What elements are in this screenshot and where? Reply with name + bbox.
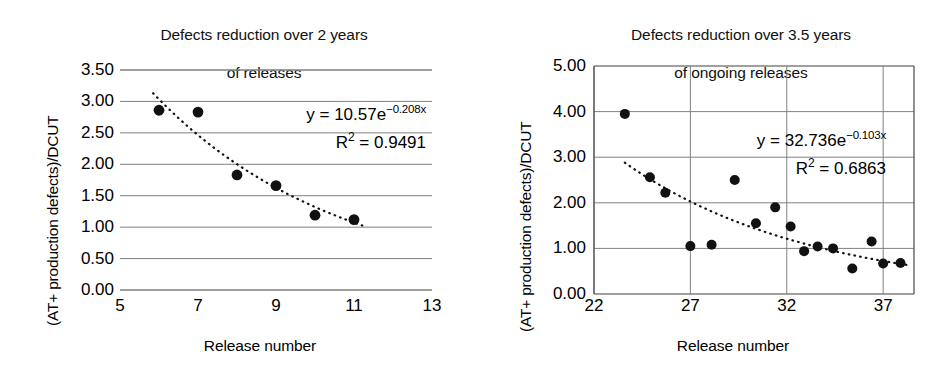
y-tick-label: 3.50 [81,60,114,80]
x-tick-label: 27 [681,296,700,316]
data-point [154,105,165,116]
y-tick-label: 2.00 [553,193,586,213]
data-point [896,258,906,268]
x-tick-label: 37 [874,296,893,316]
data-point [193,107,204,118]
chart-left-equation: y = 10.57e−0.208x [212,98,426,126]
chart-left-title-line1: Defects reduction over 2 years [160,26,367,43]
data-point [660,188,670,198]
data-point [685,241,695,251]
y-tick-label: 4.00 [553,102,586,122]
data-point [828,243,838,253]
chart-right-y-tick-labels: 0.001.002.003.004.005.00 [524,66,586,294]
data-point [847,263,857,273]
data-point [813,242,823,252]
data-point [620,109,630,119]
data-point [867,237,877,247]
y-tick-label: 1.50 [81,186,114,206]
data-point [878,258,888,268]
y-tick-label: 2.00 [81,154,114,174]
data-point [770,202,780,212]
chart-left-x-tick-labels: 5791113 [120,296,432,320]
y-tick-label: 3.00 [553,147,586,167]
chart-left-r2: R2 = 0.9491 [212,126,426,154]
chart-right-x-axis-label: Release number [553,337,913,355]
data-point [271,180,282,191]
y-tick-label: 3.00 [81,91,114,111]
data-point [786,222,796,232]
y-tick-label: 1.00 [81,217,114,237]
y-tick-label: 1.00 [553,238,586,258]
chart-left: Defects reduction over 2 years of releas… [0,0,473,374]
data-point [799,246,809,256]
data-point [310,210,321,221]
data-point [707,240,717,250]
x-tick-label: 32 [777,296,796,316]
x-tick-label: 11 [345,296,363,316]
y-tick-label: 0.50 [81,249,114,269]
x-tick-label: 9 [271,296,280,316]
y-tick-label: 2.50 [81,123,114,143]
y-tick-label: 0.00 [553,284,586,304]
figure-panel: Defects reduction over 2 years of releas… [0,0,947,374]
right-plot-svg [594,66,914,294]
chart-right-equation: y = 32.736e−0.103x [636,124,886,152]
chart-left-equation-annotation: y = 10.57e−0.208x R2 = 0.9491 [212,98,426,153]
chart-right-plot-area [594,66,914,294]
x-tick-label: 22 [585,296,604,316]
chart-left-x-axis-label: Release number [80,337,440,355]
data-point [349,214,360,225]
x-tick-label: 13 [423,296,442,316]
y-tick-label: 0.00 [81,280,114,300]
chart-right-title-line1: Defects reduction over 3.5 years [631,26,851,43]
data-point [232,170,243,181]
x-tick-label: 5 [115,296,124,316]
chart-left-y-tick-labels: 0.000.501.001.502.002.503.003.50 [58,70,114,290]
data-point [751,218,761,228]
chart-right-equation-annotation: y = 32.736e−0.103x R2 = 0.6863 [636,124,886,179]
chart-right-r2: R2 = 0.6863 [636,152,886,180]
chart-right-x-tick-labels: 22273237 [594,296,914,320]
x-tick-label: 7 [193,296,202,316]
y-tick-label: 5.00 [553,56,586,76]
